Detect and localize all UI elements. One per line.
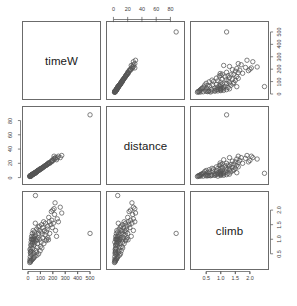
diagonal-panel-distance: distance <box>106 106 185 185</box>
variable-label-timeW: timeW <box>23 55 100 67</box>
tick-label: 1.0 <box>217 276 225 281</box>
tick-label: 400 <box>277 40 282 49</box>
tick-label: 80 <box>167 7 173 12</box>
data-point <box>116 193 120 197</box>
data-point <box>245 58 249 62</box>
data-point <box>88 231 92 235</box>
tick-label: 1.0 <box>277 235 282 243</box>
tick-label: 300 <box>61 276 70 281</box>
variable-label-distance: distance <box>107 140 184 152</box>
tick-label: 60 <box>153 7 159 12</box>
tick-label: 400 <box>73 276 82 281</box>
data-point <box>235 171 239 175</box>
axis-bottom-timeW: 0100200300400500 <box>23 271 100 277</box>
data-point <box>262 84 266 88</box>
tick-label: 2.0 <box>246 276 254 281</box>
tick-label: 0.5 <box>277 250 282 258</box>
tick-label: 0 <box>8 176 13 179</box>
variable-label-climb: climb <box>191 225 268 237</box>
data-point <box>174 30 178 34</box>
data-point <box>116 221 120 225</box>
scatter-panel-timeW-vs-climb <box>190 21 269 100</box>
points-layer <box>107 22 184 99</box>
tick-label: 20 <box>125 7 131 12</box>
data-point <box>235 84 239 88</box>
axis-top-distance: 020406080 <box>107 14 184 20</box>
tick-label: 20 <box>8 160 13 166</box>
axis-line-climb <box>270 192 276 269</box>
tick-label: 40 <box>8 146 13 152</box>
tick-label: 200 <box>48 276 57 281</box>
data-point <box>236 61 240 65</box>
data-point <box>174 231 178 235</box>
scatterplot-matrix: timeWdistanceclimb0204060800100200300400… <box>0 0 297 306</box>
tick-label: 40 <box>139 7 145 12</box>
diagonal-panel-timeW: timeW <box>22 21 101 100</box>
tick-label: 1.5 <box>277 221 282 229</box>
tick-label: 60 <box>8 132 13 138</box>
data-point <box>33 193 37 197</box>
tick-label: 0.5 <box>202 276 210 281</box>
axis-right-climb: 0.51.01.52.0 <box>270 192 276 269</box>
data-point <box>60 211 64 215</box>
data-point <box>224 30 228 34</box>
data-point <box>251 60 255 64</box>
data-point <box>53 201 57 205</box>
scatter-panel-climb-vs-timeW <box>22 191 101 270</box>
tick-label: 0 <box>277 93 282 96</box>
data-point <box>239 63 243 67</box>
points-layer <box>107 192 184 269</box>
points-layer <box>191 107 268 184</box>
points-layer <box>191 22 268 99</box>
scatter-panel-timeW-vs-distance <box>106 21 185 100</box>
data-point <box>56 220 60 224</box>
tick-label: 0 <box>27 276 30 281</box>
data-point <box>255 65 259 69</box>
tick-label: 80 <box>8 118 13 124</box>
tick-label: 500 <box>277 27 282 36</box>
data-point <box>33 221 37 225</box>
scatter-panel-distance-vs-timeW <box>22 106 101 185</box>
tick-label: 100 <box>36 276 45 281</box>
axis-left-distance: 020406080 <box>15 107 21 184</box>
points-layer <box>23 107 100 184</box>
tick-label: 1.5 <box>232 276 240 281</box>
tick-label: 100 <box>277 77 282 86</box>
axis-line-distance <box>15 107 21 184</box>
data-point <box>55 217 59 221</box>
tick-label: 300 <box>277 52 282 61</box>
scatter-panel-climb-vs-distance <box>106 191 185 270</box>
data-point <box>88 113 92 117</box>
tick-label: 500 <box>86 276 95 281</box>
axis-bottom-climb: 0.51.01.52.0 <box>191 271 268 277</box>
points-layer <box>23 192 100 269</box>
data-point <box>58 205 62 209</box>
diagonal-panel-climb: climb <box>190 191 269 270</box>
pairs-matrix: timeWdistanceclimb0204060800100200300400… <box>0 0 297 306</box>
axis-line-timeW <box>270 22 276 99</box>
data-point <box>54 234 58 238</box>
axis-right-timeW: 0100200300400500 <box>270 22 276 99</box>
scatter-panel-distance-vs-climb <box>190 106 269 185</box>
data-point <box>221 63 225 67</box>
axis-line-distance <box>107 14 184 20</box>
tick-label: 200 <box>277 65 282 74</box>
data-point <box>130 201 134 205</box>
data-point <box>255 157 259 161</box>
data-point <box>262 171 266 175</box>
tick-label: 2.0 <box>277 206 282 214</box>
data-point <box>224 113 228 117</box>
tick-label: 0 <box>112 7 115 12</box>
